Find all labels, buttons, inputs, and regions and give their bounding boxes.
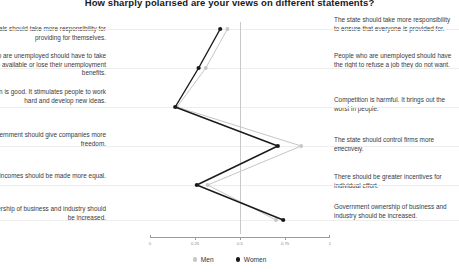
chart-title: How sharply polarised are your views on … [0, 0, 459, 8]
right-statement-label-2: People who are unemployed should have th… [334, 52, 456, 69]
legend-item-men[interactable]: Men [193, 256, 214, 263]
data-point-men-4[interactable] [299, 144, 303, 148]
left-statement-label-2: People who are unemployed should have to… [0, 52, 106, 78]
data-point-men-6[interactable] [274, 218, 278, 222]
left-statement-label-1: Individuals should take more responsibil… [0, 25, 106, 42]
x-tick-label-075: 0.75 [281, 241, 289, 246]
x-tick-label-05: 0.5 [237, 241, 243, 246]
right-statement-label-6: Government ownership of business and ind… [334, 203, 456, 220]
data-point-men-2[interactable] [204, 66, 208, 70]
right-statement-label-4: The state should control firms more effe… [334, 136, 456, 153]
axis-cap-left [150, 235, 151, 238]
legend-dot-men-icon [193, 257, 197, 261]
x-tick-label-0: 0 [149, 241, 151, 246]
legend-item-women[interactable]: Women [236, 256, 267, 263]
data-point-women-1[interactable] [218, 27, 222, 31]
right-statement-label-3: Competition is harmful. It brings out th… [334, 96, 456, 113]
data-point-women-6[interactable] [281, 218, 285, 222]
data-point-women-3[interactable] [173, 105, 177, 109]
right-statement-label-1: The state should take more responsibilit… [334, 16, 456, 33]
series-lines [150, 22, 330, 234]
x-axis [150, 237, 330, 238]
left-statement-label-5: Incomes should be made more equal. [0, 172, 106, 181]
data-point-women-5[interactable] [195, 183, 199, 187]
legend-label-women: Women [244, 256, 267, 263]
x-tick-label-025: 0.25 [191, 241, 199, 246]
data-point-men-1[interactable] [226, 27, 230, 31]
axis-cap-right [329, 235, 330, 238]
plot-area [150, 22, 330, 234]
x-tick-2 [240, 237, 241, 240]
series-line-women [175, 29, 283, 220]
x-tick-label-1: 1 [329, 241, 331, 246]
x-tick-3 [285, 237, 286, 240]
x-tick-1 [195, 237, 196, 240]
data-point-women-4[interactable] [276, 144, 280, 148]
left-statement-label-3: Competition is good. It stimulates peopl… [0, 88, 106, 105]
series-line-men [177, 29, 301, 220]
chart-legend: Men Women [0, 256, 459, 263]
legend-label-men: Men [201, 256, 214, 263]
diverging-statements-chart: How sharply polarised are your views on … [0, 0, 459, 275]
data-point-women-2[interactable] [197, 66, 201, 70]
data-point-men-5[interactable] [206, 183, 210, 187]
legend-dot-women-icon [236, 257, 240, 261]
right-statement-label-5: There should be greater incentives for i… [334, 173, 456, 190]
